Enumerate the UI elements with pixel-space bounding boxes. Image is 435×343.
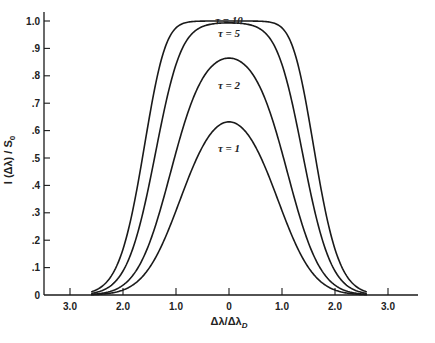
line-profile-chart: 0.1.2.3.4.5.6.7.8.91.03.02.01.001.02.03.… bbox=[0, 0, 435, 343]
x-tick-label: 0 bbox=[226, 301, 232, 312]
curve-label: τ = 2 bbox=[218, 79, 241, 91]
x-tick-label: 1.0 bbox=[275, 301, 289, 312]
y-tick-label: .5 bbox=[32, 153, 41, 164]
y-axis-title: I (Δλ) / S0 bbox=[2, 135, 17, 184]
x-tick-label: 3.0 bbox=[63, 301, 77, 312]
y-tick-label: .8 bbox=[32, 70, 41, 81]
x-tick-label: 2.0 bbox=[116, 301, 130, 312]
curve-label: τ = 1 bbox=[218, 142, 240, 154]
y-tick-label: .9 bbox=[32, 43, 41, 54]
axes: 0.1.2.3.4.5.6.7.8.91.03.02.01.001.02.03.… bbox=[26, 12, 418, 312]
x-axis-title: Δλ/ΔλD bbox=[211, 315, 248, 330]
x-tick-label: 3.0 bbox=[381, 301, 395, 312]
curve-label: τ = 10 bbox=[215, 14, 243, 26]
y-tick-label: .4 bbox=[32, 180, 41, 191]
x-tick-label: 2.0 bbox=[328, 301, 342, 312]
y-tick-label: .7 bbox=[32, 98, 41, 109]
curve-tau-5 bbox=[91, 23, 367, 294]
curve-tau-2 bbox=[91, 58, 367, 294]
y-tick-label: 1.0 bbox=[26, 16, 40, 27]
y-tick-label: .2 bbox=[32, 235, 41, 246]
curve-labels: τ = 10τ = 5τ = 2τ = 1 bbox=[215, 14, 243, 155]
curve-label: τ = 5 bbox=[218, 27, 241, 39]
y-tick-label: 0 bbox=[34, 290, 40, 301]
y-tick-label: .1 bbox=[32, 262, 41, 273]
curves bbox=[91, 21, 367, 295]
y-tick-label: .6 bbox=[32, 125, 41, 136]
y-tick-label: .3 bbox=[32, 207, 41, 218]
x-tick-label: 1.0 bbox=[169, 301, 183, 312]
